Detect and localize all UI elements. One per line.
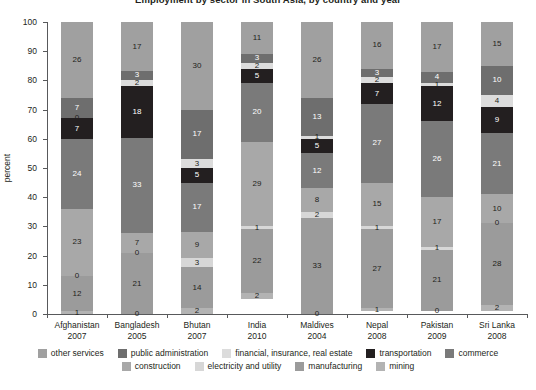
bar-segment-value: 0 xyxy=(75,114,79,122)
legend-label: financial, insurance, real estate xyxy=(235,348,352,358)
x-tick-mark xyxy=(527,314,528,318)
bar-segment: 24 xyxy=(61,139,93,209)
bar-segment-value: 15 xyxy=(373,200,382,208)
legend-swatch-icon xyxy=(295,362,304,371)
bar-segment-value: 17 xyxy=(433,218,442,226)
bar-segment: 2 xyxy=(241,293,273,299)
bar-segment-value: 5 xyxy=(315,142,319,150)
bar-segment: 28 xyxy=(481,223,513,305)
bar-segment-value: 2 xyxy=(255,62,259,70)
stacked-bar: 17411226171210 xyxy=(421,22,453,314)
bar-segment-value: 29 xyxy=(253,180,262,188)
legend-label: mining xyxy=(389,361,414,371)
stacked-bar: 1132520291222 xyxy=(241,22,273,314)
x-axis-group-label: Sri Lanka2008 xyxy=(461,320,533,342)
bar-segment-value: 1 xyxy=(375,224,379,232)
legend-swatch-icon xyxy=(38,349,47,358)
bar-segment: 33 xyxy=(301,218,333,314)
bar-segment: 12 xyxy=(421,86,453,121)
bar-segment: 3 xyxy=(181,258,213,267)
legend-item[interactable]: manufacturing xyxy=(295,361,362,371)
x-tick-mark xyxy=(467,314,468,318)
bar-segment-value: 33 xyxy=(313,262,322,270)
bar-segment: 26 xyxy=(61,22,93,98)
bar-segment-value: 10 xyxy=(493,205,502,213)
legend-swatch-icon xyxy=(222,349,231,358)
bar-segment-value: 1 xyxy=(255,224,259,232)
legend-item[interactable]: electricity and utility xyxy=(195,361,282,371)
legend-item[interactable]: mining xyxy=(376,361,414,371)
bar-segment: 27 xyxy=(361,229,393,308)
bar-segment: 17 xyxy=(181,110,213,160)
bar-segment: 3 xyxy=(181,159,213,168)
legend-swatch-icon xyxy=(366,349,375,358)
y-tick-label: 0 xyxy=(32,309,37,319)
legend-swatch-icon xyxy=(122,362,131,371)
bar-segment-value: 17 xyxy=(193,130,202,138)
bar-segment-value: 21 xyxy=(433,276,442,284)
bar-segment: 12 xyxy=(301,153,333,188)
bar-segment-value: 33 xyxy=(133,181,142,189)
legend-item[interactable]: other services xyxy=(38,348,104,358)
bar-segment: 2 xyxy=(181,308,213,314)
chart-title: Employment by sector in South Asia, by c… xyxy=(0,0,536,5)
stacked-bar: 2670724230121 xyxy=(61,22,93,314)
bar-segment: 21 xyxy=(121,253,153,314)
y-tick-label: 90 xyxy=(28,46,37,56)
legend-swatch-icon xyxy=(195,362,204,371)
legend-label: manufacturing xyxy=(308,361,362,371)
bar-segment-value: 12 xyxy=(433,100,442,108)
bar-segment-value: 0 xyxy=(135,249,139,257)
chart-legend: other servicespublic administrationfinan… xyxy=(0,348,536,374)
bar-segment-value: 0 xyxy=(435,307,439,315)
legend-row-secondary: constructionelectricity and utilitymanuf… xyxy=(0,361,536,371)
bar-segment-value: 0 xyxy=(495,219,499,227)
bar-segment: 17 xyxy=(421,22,453,72)
year-label: 2008 xyxy=(461,331,533,342)
bar-segment: 16 xyxy=(361,22,393,69)
bar-segment: 26 xyxy=(301,22,333,98)
bar-segment: 7 xyxy=(361,83,393,103)
bar-segment-value: 3 xyxy=(195,259,199,267)
x-tick-mark xyxy=(407,314,408,318)
legend-item[interactable]: financial, insurance, real estate xyxy=(222,348,352,358)
bar-segment-value: 2 xyxy=(135,79,139,87)
bar-segment: 15 xyxy=(361,183,393,227)
y-tick-label: 80 xyxy=(28,75,37,85)
stacked-bar: 1732183370210 xyxy=(121,22,153,314)
bar-segment-value: 7 xyxy=(75,125,79,133)
bar-segment-value: 26 xyxy=(433,155,442,163)
legend-item[interactable]: transportation xyxy=(366,348,431,358)
y-tick-label: 60 xyxy=(28,134,37,144)
bar-segment-value: 11 xyxy=(253,34,261,42)
bar-segment-value: 26 xyxy=(73,56,82,64)
y-tick-label: 10 xyxy=(28,280,37,290)
bar-segment-value: 4 xyxy=(495,97,499,105)
bar-segment: 5 xyxy=(181,168,213,183)
bar-segment: 27 xyxy=(361,104,393,183)
bar-segment: 33 xyxy=(121,138,153,233)
x-tick-mark xyxy=(287,314,288,318)
bar-segment-value: 21 xyxy=(133,280,142,288)
x-tick-mark xyxy=(167,314,168,318)
legend-item[interactable]: public administration xyxy=(118,348,208,358)
bar-segment: 2 xyxy=(481,305,513,311)
bar-segment: 1 xyxy=(61,311,93,314)
bar-segment-value: 0 xyxy=(135,310,139,318)
y-tick-label: 20 xyxy=(28,251,37,261)
bar-segment: 5 xyxy=(241,69,273,84)
bar-segment-value: 16 xyxy=(373,41,382,49)
legend-label: transportation xyxy=(379,348,431,358)
legend-item[interactable]: commerce xyxy=(445,348,498,358)
bar-segment-value: 22 xyxy=(253,257,262,265)
legend-item[interactable]: construction xyxy=(122,361,181,371)
stacked-bar: 3017351793142 xyxy=(181,22,213,314)
legend-label: commerce xyxy=(458,348,498,358)
legend-label: electricity and utility xyxy=(208,361,282,371)
bar-segment-value: 12 xyxy=(313,167,322,175)
bar-segment: 14 xyxy=(181,267,213,308)
legend-swatch-icon xyxy=(445,349,454,358)
bar-segment: 17 xyxy=(421,197,453,247)
bar-segment-value: 12 xyxy=(73,290,82,298)
bar-segment: 26 xyxy=(421,121,453,197)
